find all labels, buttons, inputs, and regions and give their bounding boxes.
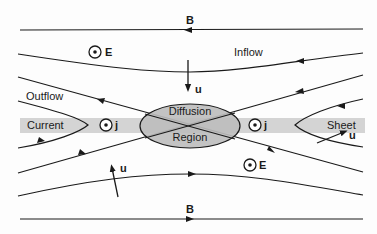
label-diffusion: Diffusion	[169, 105, 212, 117]
arrow-head	[37, 137, 45, 143]
reconnection-diagram: B B Inflow Outflow Current Sheet Diffusi…	[0, 0, 377, 234]
current-j-right-icon	[249, 119, 261, 131]
arrow-head	[78, 149, 86, 155]
label-u-right: u	[349, 129, 356, 141]
arrow-head	[186, 216, 194, 222]
arrow-head	[97, 98, 105, 104]
label-inflow: Inflow	[234, 46, 263, 58]
label-region: Region	[173, 131, 208, 143]
field-line-inflow-upper	[18, 53, 363, 72]
arrow-head	[184, 27, 192, 33]
diagram-canvas: B B Inflow Outflow Current Sheet Diffusi…	[0, 0, 377, 234]
arrow-head	[296, 58, 304, 64]
label-e-upper: E	[105, 46, 112, 58]
arrow-head	[188, 171, 196, 177]
e-field-lower-icon	[244, 159, 256, 171]
label-u-lower: u	[120, 162, 127, 174]
e-field-upper-icon	[89, 46, 101, 58]
label-current: Current	[27, 119, 64, 131]
velocity-arrow-lower	[112, 168, 118, 197]
label-b-bottom: B	[186, 203, 194, 215]
label-b-top: B	[186, 14, 194, 26]
current-j-left-icon	[100, 119, 112, 131]
label-j-right: j	[263, 119, 267, 131]
field-line-lower	[18, 174, 363, 196]
label-u-top: u	[195, 83, 202, 95]
label-outflow: Outflow	[26, 90, 63, 102]
label-j-left: j	[114, 119, 118, 131]
label-e-lower: E	[259, 159, 266, 171]
